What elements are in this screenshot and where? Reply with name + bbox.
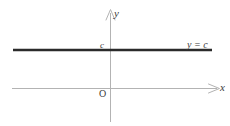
y-axis-label: y (114, 8, 119, 19)
function-equation-label: y = c (187, 40, 208, 50)
y-intercept-label: c (100, 41, 104, 50)
x-axis-label: x (220, 82, 225, 93)
function-graph-figure: y x c O y = c (0, 0, 230, 126)
origin-label: O (99, 89, 106, 99)
